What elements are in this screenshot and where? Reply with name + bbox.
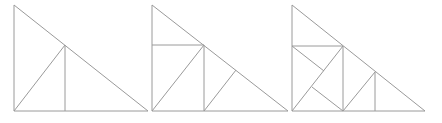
edge-line: [292, 46, 343, 111]
edge-line: [14, 5, 148, 111]
edge-line: [204, 70, 236, 111]
triangle-figure-stage-1: [14, 5, 148, 111]
edge-line: [312, 87, 343, 111]
edge-line: [343, 72, 375, 111]
edge-line: [152, 5, 288, 111]
edge-line: [292, 46, 324, 71]
triangle-subdivision-diagram: [0, 0, 442, 123]
edge-line: [152, 45, 204, 111]
edge-line: [292, 5, 425, 111]
triangle-figure-stage-3: [292, 5, 425, 111]
triangle-figure-stage-2: [152, 5, 288, 111]
edge-line: [14, 45, 65, 111]
